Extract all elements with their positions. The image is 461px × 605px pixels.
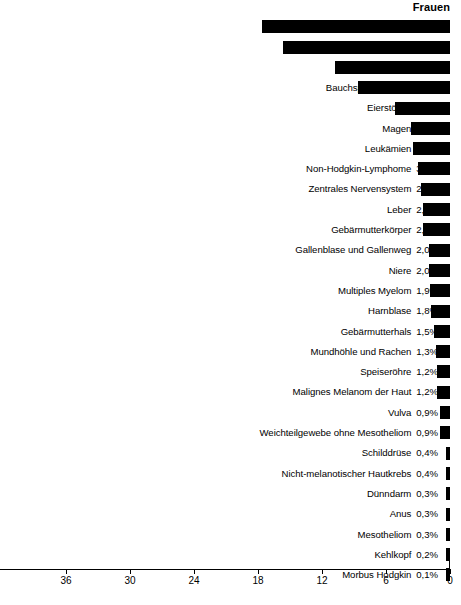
bar (358, 81, 450, 94)
bar-row: Magen3,7% (0, 119, 461, 139)
bar (437, 365, 450, 378)
category-name: Vulva (388, 407, 411, 418)
category-name: Nicht-melanotischer Hautkrebs (282, 468, 412, 479)
bar-label: Gebärmutterhals1,5% (0, 322, 444, 342)
category-name: Magen (382, 123, 411, 134)
category-name: Schilddrüse (362, 447, 412, 458)
bar-row: Zentrales Nervensystem2,7% (0, 179, 461, 199)
bar-label: Gallenblase und Gallenweg2,0% (0, 240, 444, 260)
category-name: Speiseröhre (360, 366, 411, 377)
x-axis: 363024181260 (0, 569, 461, 605)
category-name: Zentrales Nervensystem (308, 183, 411, 194)
bar-label: Multiples Myelom1,9% (0, 281, 444, 301)
bar (418, 162, 450, 175)
bar-row: Malignes Melanom der Haut1,2% (0, 382, 461, 402)
bar (423, 223, 450, 236)
category-name: Harnblase (368, 305, 411, 316)
value-label: 0,9% (416, 407, 438, 418)
category-name: Multiples Myelom (338, 285, 411, 296)
category-name: Gallenblase und Gallenweg (295, 244, 411, 255)
bar (436, 345, 450, 358)
bar-row: Non-Hodgkin-Lymphome3,0% (0, 159, 461, 179)
bar-label: Gebärmutterkörper2,5% (0, 220, 444, 240)
bar-label: Weichteilgewebe ohne Mesotheliom0,9% (0, 423, 444, 443)
bar-label: Eierstöcke5,2% (0, 98, 444, 118)
value-label: 1,2% (416, 366, 438, 377)
bar-row: Lunge15,7% (0, 37, 461, 57)
bar-row: Vulva0,9% (0, 403, 461, 423)
bar-row: Schilddrüse0,4% (0, 443, 461, 463)
bar (431, 305, 450, 318)
axis-tick (66, 569, 67, 574)
bar-label: Schilddrüse0,4% (0, 443, 444, 463)
category-name: Mundhöhle und Rachen (310, 346, 411, 357)
bar (283, 41, 450, 54)
bar-label: Leukämien3,5% (0, 139, 444, 159)
category-name: Dünndarm (367, 488, 411, 499)
axis-tick-label: 0 (435, 575, 461, 586)
bar (411, 122, 450, 135)
category-name: Non-Hodgkin-Lymphome (306, 163, 411, 174)
bar-row: Darm10,8% (0, 58, 461, 78)
value-label: 1,3% (416, 346, 438, 357)
axis-tick-label: 24 (179, 575, 209, 586)
bar-label: Malignes Melanom der Haut1,2% (0, 382, 444, 402)
bar-row: Multiples Myelom1,9% (0, 281, 461, 301)
value-label: 0,2% (416, 549, 438, 560)
bar (423, 203, 450, 216)
bar-chart: Frauen Brustdrüse17,6%Lunge15,7%Darm10,8… (0, 0, 461, 605)
plot-area: Brustdrüse17,6%Lunge15,7%Darm10,8%Bauchs… (0, 17, 461, 569)
category-name: Gebärmutterhals (341, 326, 412, 337)
bar-row: Leber2,5% (0, 200, 461, 220)
bar-label: Anus0,3% (0, 504, 444, 524)
value-label: 0,4% (416, 468, 438, 479)
bar (395, 102, 450, 115)
bar-label: Zentrales Nervensystem2,7% (0, 179, 444, 199)
bar-row: Anus0,3% (0, 504, 461, 524)
bar (413, 142, 450, 155)
bar-label: Mesotheliom0,3% (0, 525, 444, 545)
axis-tick-label: 18 (243, 575, 273, 586)
bar (446, 528, 450, 541)
bar-row: Weichteilgewebe ohne Mesotheliom0,9% (0, 423, 461, 443)
chart-title: Frauen (413, 1, 450, 14)
bar-row: Speiseröhre1,2% (0, 362, 461, 382)
axis-right-cap (449, 556, 450, 570)
bar-label: Mundhöhle und Rachen1,3% (0, 342, 444, 362)
bar-row: Niere2,0% (0, 261, 461, 281)
bar-label: Dünndarm0,3% (0, 484, 444, 504)
bar (421, 183, 450, 196)
bar (262, 20, 450, 33)
axis-tick (130, 569, 131, 574)
axis-tick-label: 6 (371, 575, 401, 586)
bar-row: Eierstöcke5,2% (0, 98, 461, 118)
bar (430, 284, 450, 297)
bar (429, 264, 450, 277)
bar-row: Leukämien3,5% (0, 139, 461, 159)
bar (446, 508, 450, 521)
bar-label: Kehlkopf0,2% (0, 545, 444, 565)
bar (437, 386, 450, 399)
axis-tick-label: 36 (51, 575, 81, 586)
bar-row: Brustdrüse17,6% (0, 17, 461, 37)
value-label: 0,3% (416, 529, 438, 540)
bar-label: Leber2,5% (0, 200, 444, 220)
bar-row: Kehlkopf0,2% (0, 545, 461, 565)
axis-tick-label: 30 (115, 575, 145, 586)
bar (446, 487, 450, 500)
bar-row: Mundhöhle und Rachen1,3% (0, 342, 461, 362)
bar (446, 447, 450, 460)
bar-row: Gebärmutterkörper2,5% (0, 220, 461, 240)
category-name: Mesotheliom (357, 529, 411, 540)
axis-tick-label: 12 (307, 575, 337, 586)
value-label: 0,3% (416, 488, 438, 499)
bar (440, 426, 450, 439)
category-name: Anus (390, 508, 412, 519)
category-name: Leukämien (365, 143, 411, 154)
bar-row: Gallenblase und Gallenweg2,0% (0, 240, 461, 260)
bar-row: Gebärmutterhals1,5% (0, 322, 461, 342)
bar-row: Nicht-melanotischer Hautkrebs0,4% (0, 464, 461, 484)
bar-label: Vulva0,9% (0, 403, 444, 423)
bar-row: Harnblase1,8% (0, 301, 461, 321)
axis-line (0, 569, 450, 570)
